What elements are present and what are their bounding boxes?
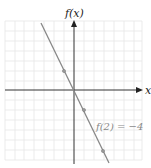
annotation-label: f(2) = −4: [95, 121, 143, 132]
x-axis-label: x: [145, 84, 151, 97]
y-axis-label: f(x): [64, 7, 84, 20]
function-graph: x f(x) f(2) = −4: [0, 0, 151, 168]
axes: [5, 25, 139, 164]
function-line: [41, 23, 109, 163]
